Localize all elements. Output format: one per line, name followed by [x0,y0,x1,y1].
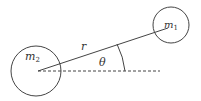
mass2-label: m2 [25,50,40,64]
distance-label: r [81,40,87,53]
angle-label: θ [99,56,106,69]
two-body-diagram: m2 m1 r θ [0,0,201,101]
angle-arc [117,44,125,71]
mass1-label: m1 [164,19,178,32]
